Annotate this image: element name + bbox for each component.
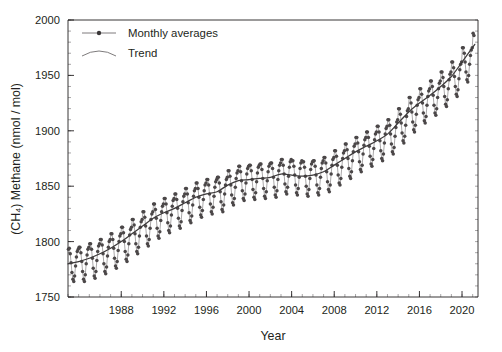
data-point-marker bbox=[329, 172, 333, 176]
data-point-marker bbox=[239, 170, 243, 174]
data-point-marker bbox=[313, 165, 317, 169]
data-point-marker bbox=[469, 54, 473, 58]
data-point-marker bbox=[339, 177, 343, 181]
y-tick-label: 2000 bbox=[35, 14, 60, 26]
x-tick-label: 2012 bbox=[364, 304, 389, 316]
data-point-marker bbox=[198, 206, 202, 210]
data-point-marker bbox=[296, 193, 300, 197]
data-point-marker bbox=[403, 135, 407, 139]
data-point-marker bbox=[134, 242, 138, 246]
data-point-marker bbox=[408, 96, 412, 100]
data-point-marker bbox=[253, 198, 256, 202]
data-point-marker bbox=[381, 159, 385, 163]
data-point-marker bbox=[338, 183, 342, 187]
data-point-marker bbox=[288, 166, 292, 170]
data-point-marker bbox=[125, 260, 129, 264]
data-point-marker bbox=[227, 169, 231, 173]
data-point-marker bbox=[127, 242, 131, 246]
data-point-marker bbox=[200, 215, 204, 219]
data-point-marker bbox=[446, 98, 450, 102]
data-point-marker bbox=[111, 238, 115, 242]
data-point-marker bbox=[286, 186, 290, 190]
data-point-marker bbox=[371, 158, 375, 162]
data-point-marker bbox=[70, 271, 74, 275]
data-point-marker bbox=[265, 190, 269, 194]
data-point-marker bbox=[238, 165, 242, 169]
legend-label-monthly-averages: Monthly averages bbox=[128, 27, 218, 39]
data-point-marker bbox=[422, 111, 426, 115]
data-point-marker bbox=[430, 79, 434, 83]
data-point-marker bbox=[159, 219, 163, 223]
data-point-marker bbox=[466, 80, 470, 84]
data-point-marker bbox=[368, 155, 372, 159]
data-point-marker bbox=[222, 203, 226, 207]
data-point-marker bbox=[367, 136, 371, 140]
data-point-marker bbox=[317, 193, 321, 197]
data-point-marker bbox=[456, 88, 460, 92]
data-point-marker bbox=[274, 196, 278, 200]
data-point-marker bbox=[73, 274, 77, 278]
data-point-marker bbox=[212, 194, 216, 198]
x-tick-label: 2008 bbox=[322, 304, 347, 316]
data-point-marker bbox=[187, 211, 191, 215]
data-point-marker bbox=[166, 221, 170, 225]
data-point-marker bbox=[85, 253, 89, 257]
data-point-marker bbox=[153, 202, 157, 206]
x-tick-label: 1988 bbox=[109, 304, 134, 316]
y-tick-label: 1850 bbox=[35, 180, 60, 192]
data-point-marker bbox=[223, 192, 227, 196]
data-point-marker bbox=[213, 186, 217, 190]
data-point-marker bbox=[196, 187, 200, 191]
data-point-marker bbox=[283, 182, 287, 186]
data-point-marker bbox=[344, 142, 348, 146]
y-tick-label: 1950 bbox=[35, 69, 60, 81]
data-point-marker bbox=[281, 158, 285, 162]
data-point-marker bbox=[110, 232, 114, 236]
data-point-marker bbox=[255, 180, 259, 184]
data-point-marker bbox=[143, 215, 147, 219]
data-point-marker bbox=[266, 179, 270, 183]
data-point-marker bbox=[273, 186, 277, 190]
data-point-marker bbox=[217, 176, 221, 180]
data-point-marker bbox=[233, 197, 237, 201]
data-point-marker bbox=[472, 34, 476, 38]
y-axis: 175018001850190019502000 bbox=[35, 14, 478, 303]
data-point-marker bbox=[93, 276, 97, 280]
data-point-marker bbox=[391, 152, 395, 156]
data-point-marker bbox=[370, 165, 374, 169]
data-point-marker bbox=[409, 101, 413, 105]
data-point-marker bbox=[219, 200, 223, 204]
data-point-marker bbox=[251, 188, 255, 192]
data-point-marker bbox=[132, 223, 136, 227]
data-point-marker bbox=[404, 124, 408, 128]
data-point-marker bbox=[453, 75, 457, 79]
data-point-marker bbox=[94, 270, 98, 274]
data-point-marker bbox=[201, 209, 205, 213]
data-point-marker bbox=[115, 266, 119, 270]
data-point-marker bbox=[440, 70, 444, 74]
data-point-marker bbox=[104, 272, 108, 276]
data-point-marker bbox=[307, 188, 311, 192]
data-point-marker bbox=[241, 189, 245, 193]
data-point-marker bbox=[441, 76, 445, 80]
data-point-marker bbox=[177, 217, 181, 221]
data-point-marker bbox=[228, 174, 232, 178]
data-point-marker bbox=[158, 230, 162, 234]
data-point-marker bbox=[415, 112, 419, 116]
data-point-marker bbox=[309, 168, 313, 172]
data-point-marker bbox=[178, 227, 182, 231]
data-point-marker bbox=[84, 262, 88, 266]
data-point-marker bbox=[303, 166, 307, 170]
data-point-marker bbox=[207, 183, 211, 187]
data-point-marker bbox=[417, 96, 421, 100]
data-point-marker bbox=[372, 147, 376, 151]
data-point-marker bbox=[377, 130, 381, 134]
data-point-marker bbox=[392, 146, 396, 150]
data-point-marker bbox=[328, 190, 332, 194]
data-point-marker bbox=[455, 95, 459, 99]
data-point-marker bbox=[131, 218, 135, 222]
data-point-marker bbox=[349, 177, 353, 181]
data-series-group bbox=[67, 32, 476, 284]
data-point-marker bbox=[96, 250, 100, 254]
data-point-marker bbox=[383, 141, 387, 145]
